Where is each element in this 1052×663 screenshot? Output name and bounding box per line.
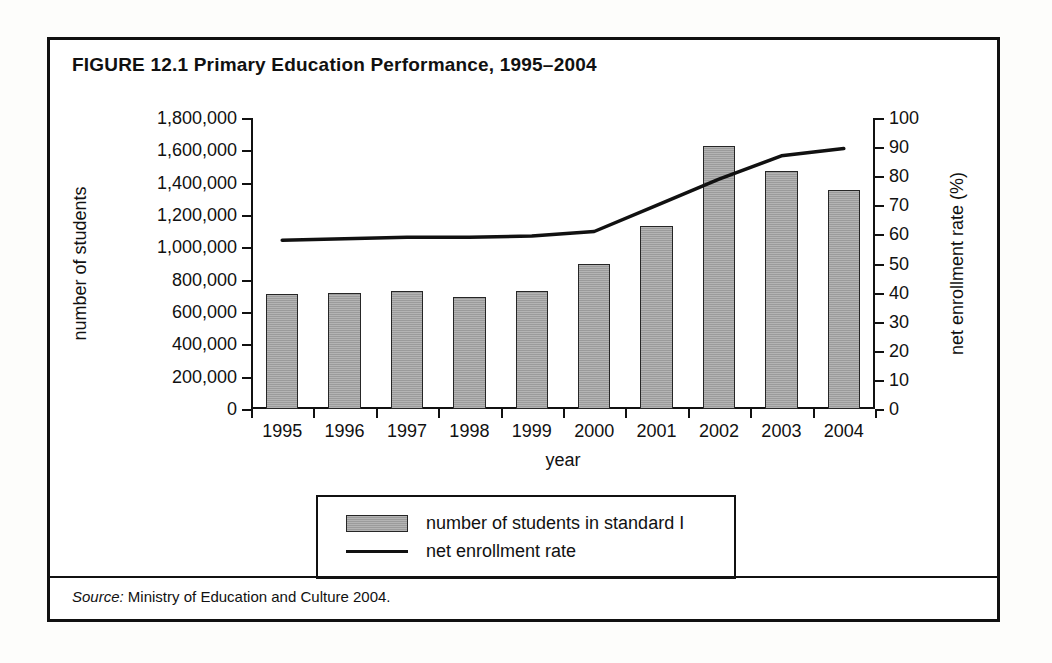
x-axis-tick-label: 1995 (262, 421, 302, 442)
x-axis-tick-label: 2000 (574, 421, 614, 442)
y-axis-right-tick-label: 100 (889, 108, 919, 129)
y-axis-right-tick-label: 70 (889, 195, 909, 216)
source-divider (50, 576, 997, 578)
y-axis-right-tick (875, 322, 884, 324)
y-axis-left-tick-label: 800,000 (172, 269, 237, 290)
y-axis-left-tick (242, 247, 251, 249)
legend-label-students: number of students in standard I (426, 513, 684, 534)
y-axis-left-tick (242, 150, 251, 152)
y-axis-left-tick-label: 1,600,000 (157, 140, 237, 161)
y-axis-right-tick-label: 50 (889, 253, 909, 274)
y-axis-left-tick-label: 600,000 (172, 302, 237, 323)
y-axis-right-title: net enrollment rate (%) (945, 118, 969, 409)
x-axis-tick (750, 409, 752, 418)
x-axis-tick (376, 409, 378, 418)
source-label: Source: (72, 588, 124, 605)
y-axis-right-tick (875, 205, 884, 207)
y-axis-right-tick (875, 264, 884, 266)
y-axis-left-tick-label: 1,200,000 (157, 205, 237, 226)
y-axis-left-tick-label: 1,000,000 (157, 237, 237, 258)
y-axis-left-tick (242, 280, 251, 282)
x-axis-tick-label: 1998 (449, 421, 489, 442)
figure-frame: FIGURE 12.1 Primary Education Performanc… (47, 37, 1000, 622)
x-axis-title: year (251, 450, 875, 471)
legend-bar-swatch-icon (346, 515, 408, 532)
x-axis-tick (501, 409, 503, 418)
y-axis-left-tick (242, 118, 251, 120)
y-axis-left-tick (242, 409, 251, 411)
x-axis-tick (313, 409, 315, 418)
y-axis-right-tick (875, 380, 884, 382)
line-series (251, 118, 875, 409)
y-axis-left-tick (242, 312, 251, 314)
x-axis-tick-label: 2002 (699, 421, 739, 442)
y-axis-right-tick (875, 118, 884, 120)
x-axis-tick (563, 409, 565, 418)
figure-title: FIGURE 12.1 Primary Education Performanc… (72, 54, 597, 76)
y-axis-right-tick-label: 90 (889, 137, 909, 158)
x-axis-tick-label: 1999 (512, 421, 552, 442)
y-axis-right-tick-label: 20 (889, 340, 909, 361)
x-axis-tick (875, 409, 877, 418)
source-text: Ministry of Education and Culture 2004. (124, 588, 391, 605)
x-axis-tick-label: 2003 (761, 421, 801, 442)
legend-item-enrollment: net enrollment rate (318, 537, 734, 565)
y-axis-right-tick (875, 293, 884, 295)
y-axis-left-tick-label: 400,000 (172, 334, 237, 355)
x-axis-tick (688, 409, 690, 418)
y-axis-right-tick (875, 351, 884, 353)
x-axis-tick-label: 1996 (325, 421, 365, 442)
y-axis-right-tick (875, 147, 884, 149)
legend-label-enrollment: net enrollment rate (426, 541, 576, 562)
x-axis-tick-label: 2001 (637, 421, 677, 442)
y-axis-right-tick-label: 10 (889, 369, 909, 390)
x-axis-tick-label: 2004 (824, 421, 864, 442)
y-axis-left-tick (242, 344, 251, 346)
y-axis-right-tick-label: 40 (889, 282, 909, 303)
y-axis-left-title: number of students (68, 118, 92, 409)
y-axis-left-tick (242, 183, 251, 185)
y-axis-left-tick-label: 1,400,000 (157, 172, 237, 193)
x-axis-tick (813, 409, 815, 418)
y-axis-left-tick-label: 0 (227, 399, 237, 420)
y-axis-left-tick (242, 215, 251, 217)
x-axis-tick (438, 409, 440, 418)
y-axis-right-tick-label: 60 (889, 224, 909, 245)
x-axis-tick (251, 409, 253, 418)
y-axis-right-tick-label: 80 (889, 166, 909, 187)
y-axis-left-tick-label: 200,000 (172, 366, 237, 387)
y-axis-right-tick (875, 234, 884, 236)
legend-line-swatch-icon (346, 550, 408, 553)
y-axis-left-tick-label: 1,800,000 (157, 108, 237, 129)
x-axis-tick (625, 409, 627, 418)
plot-area: 0200,000400,000600,000800,0001,000,0001,… (251, 118, 875, 409)
y-axis-right-tick-label: 30 (889, 311, 909, 332)
legend-item-students: number of students in standard I (318, 509, 734, 537)
y-axis-right-tick (875, 176, 884, 178)
net-enrollment-line (282, 149, 844, 241)
source-note: Source: Ministry of Education and Cultur… (72, 588, 391, 605)
y-axis-right-tick-label: 0 (889, 399, 899, 420)
y-axis-left-tick (242, 377, 251, 379)
chart-legend: number of students in standard I net enr… (316, 495, 736, 579)
x-axis-tick-label: 1997 (387, 421, 427, 442)
